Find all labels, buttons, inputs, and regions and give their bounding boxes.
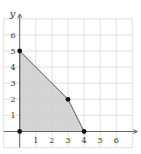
x-tick-label: 5 <box>98 136 103 145</box>
feasible-region-diagram: xy 123456123456 <box>0 0 141 154</box>
x-tick-label: 4 <box>82 136 87 145</box>
x-tick-label: 3 <box>65 136 70 145</box>
x-tick-label: 1 <box>33 136 38 145</box>
y-tick-label: 5 <box>11 47 16 56</box>
x-tick-label: 6 <box>114 136 119 145</box>
y-tick-label: 1 <box>11 111 16 120</box>
y-axis-label: y <box>9 8 16 19</box>
y-tick-label: 4 <box>11 63 16 72</box>
vertex-point <box>66 97 71 102</box>
vertex-point <box>17 49 22 54</box>
x-tick-label: 2 <box>49 136 54 145</box>
y-tick-label: 6 <box>11 31 16 40</box>
y-tick-label: 2 <box>11 95 16 104</box>
vertex-point <box>82 129 87 134</box>
y-tick-label: 3 <box>11 79 16 88</box>
vertex-point <box>17 129 22 134</box>
